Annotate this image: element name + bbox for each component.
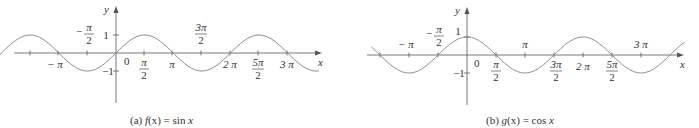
svg-text:2: 2 <box>198 34 204 46</box>
x-axis-label: x <box>317 56 323 68</box>
x-label-three-pi: 3 π <box>633 38 648 50</box>
svg-text:3π: 3π <box>194 21 207 33</box>
figure-canvas: y x 1 −1 0 − π − π 2 π 2 π 3π 2 2 π <box>0 0 699 128</box>
x-label-neg-pi: − π <box>398 38 414 50</box>
x-label-three-pi: 3 π <box>279 58 294 70</box>
x-axis-arrow-icon <box>677 53 684 58</box>
y-label-1: 1 <box>455 25 461 37</box>
svg-text:5π: 5π <box>252 56 264 68</box>
caption-a: (a) f(x) = sin x <box>130 114 193 127</box>
x-label-half-pi: π 2 <box>139 56 149 81</box>
y-axis-arrow-icon <box>465 7 470 14</box>
svg-text:π: π <box>493 58 499 70</box>
x-axis-arrow-icon <box>315 51 322 56</box>
svg-text:2: 2 <box>493 71 499 83</box>
svg-text:−: − <box>76 25 82 37</box>
x-label-neg-half-pi: − π 2 <box>426 23 444 48</box>
svg-text:2: 2 <box>86 34 92 46</box>
svg-text:2: 2 <box>141 69 147 81</box>
y-label-neg1: −1 <box>102 65 114 77</box>
x-label-half-pi: π 2 <box>491 58 501 83</box>
svg-text:2: 2 <box>255 69 261 81</box>
x-label-five-half-pi: 5π 2 <box>252 56 264 81</box>
svg-text:−: − <box>426 27 432 39</box>
svg-text:π: π <box>436 23 442 35</box>
x-label-neg-pi: − π <box>47 58 63 70</box>
origin-label: 0 <box>124 55 130 67</box>
x-label-two-pi: 2 π <box>223 58 237 70</box>
y-label-1: 1 <box>103 29 109 41</box>
panel-sin: y x 1 −1 0 − π − π 2 π 2 π 3π 2 2 π <box>0 3 323 127</box>
svg-text:π: π <box>86 21 92 33</box>
origin-label: 0 <box>474 57 480 69</box>
svg-text:5π: 5π <box>606 58 618 70</box>
x-label-five-half-pi: 5π 2 <box>606 58 618 83</box>
caption-b: (b) g(x) = cos x <box>486 114 554 127</box>
x-label-pi: π <box>522 38 528 50</box>
svg-text:π: π <box>141 56 147 68</box>
x-label-neg-half-pi: − π 2 <box>76 21 94 46</box>
y-axis-label: y <box>454 4 460 16</box>
svg-text:3π: 3π <box>549 58 562 70</box>
y-axis-arrow-icon <box>114 6 119 13</box>
y-axis-label: y <box>103 3 109 15</box>
x-label-pi: π <box>169 58 175 70</box>
x-label-two-pi: 2 π <box>576 60 590 72</box>
svg-text:2: 2 <box>553 71 559 83</box>
panel-cos: y x 1 −1 0 − π − π 2 π 2 π 3π 2 2 π <box>367 4 685 127</box>
x-label-three-half-pi: 3π 2 <box>549 58 562 83</box>
y-label-neg1: −1 <box>453 67 465 79</box>
svg-text:2: 2 <box>436 36 442 48</box>
svg-text:2: 2 <box>609 71 615 83</box>
x-label-three-half-pi: 3π 2 <box>194 21 207 46</box>
x-axis-label: x <box>679 58 685 70</box>
